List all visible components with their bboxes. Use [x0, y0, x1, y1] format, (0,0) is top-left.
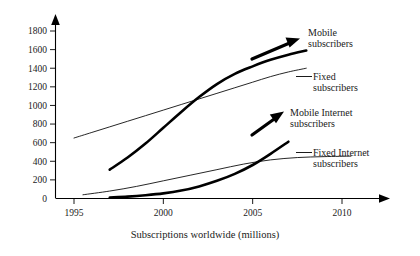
x-tick-label: 2010 — [333, 208, 352, 218]
y-tick-label: 1200 — [28, 82, 47, 92]
mobile-subscribers-arrow-icon — [252, 38, 300, 59]
y-axis-ticks: 020040060080010001200140016001800 — [28, 26, 56, 204]
y-tick-label: 200 — [33, 175, 48, 185]
x-axis-ticks: 1995200020052010 — [65, 199, 352, 219]
y-tick-label: 400 — [33, 157, 48, 167]
mobile-subscribers-label-line1: Mobile — [308, 27, 337, 38]
mobile-subscribers-label-line2: subscribers — [308, 38, 353, 49]
subscriptions-line-chart: 020040060080010001200140016001800 199520… — [0, 0, 420, 256]
mobile-internet-subscribers-label-line1: Mobile Internet — [290, 107, 353, 118]
fixed-subscribers-label-line2: subscribers — [313, 82, 358, 93]
mobile-internet-subscribers-label-line2: subscribers — [290, 118, 335, 129]
x-tick-label: 2000 — [154, 208, 173, 218]
x-tick-label: 2005 — [243, 208, 262, 218]
fixed-subscribers-label-line1: Fixed — [313, 71, 336, 82]
fixed-internet-subscribers-label-line2: subscribers — [313, 158, 358, 169]
y-tick-label: 600 — [33, 138, 48, 148]
y-tick-label: 1600 — [28, 45, 47, 55]
x-tick-label: 1995 — [65, 208, 84, 218]
x-axis — [56, 194, 391, 203]
y-tick-label: 0 — [42, 194, 47, 204]
y-tick-label: 1800 — [28, 26, 47, 36]
mobile-internet-subscribers-arrow-icon — [252, 112, 284, 136]
y-tick-label: 1400 — [28, 64, 47, 74]
y-axis — [51, 14, 60, 198]
series-line-mobile-subscribers — [110, 51, 307, 170]
y-tick-label: 1000 — [28, 101, 47, 111]
y-tick-label: 800 — [33, 119, 48, 129]
x-axis-title: Subscriptions worldwide (millions) — [131, 229, 280, 241]
fixed-internet-subscribers-label-line1: Fixed Internet — [313, 147, 370, 158]
chart-container: 020040060080010001200140016001800 199520… — [0, 0, 420, 256]
